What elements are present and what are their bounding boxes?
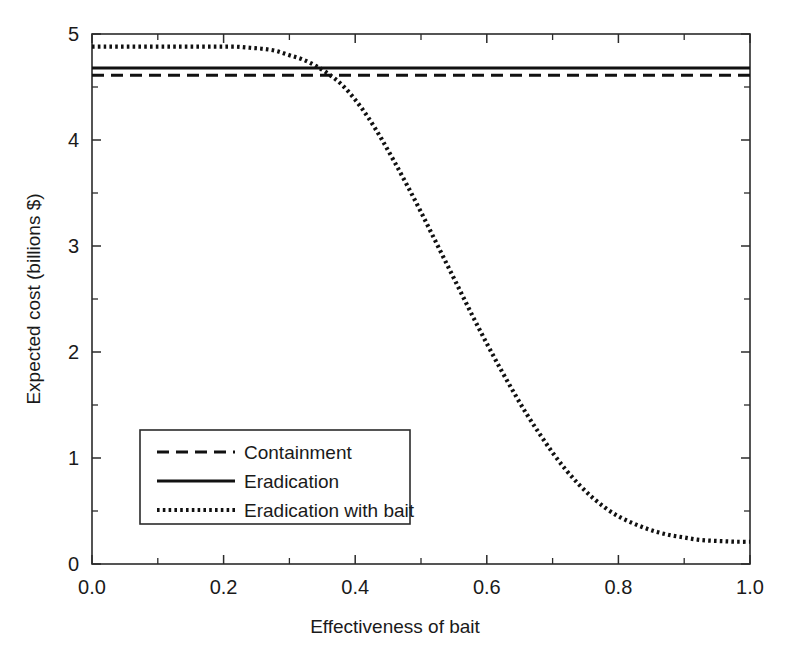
x-axis-title: Effectiveness of bait bbox=[310, 616, 480, 637]
y-tick-label: 5 bbox=[68, 23, 79, 45]
y-axis-title: Expected cost (billions $) bbox=[23, 193, 44, 404]
legend-label-1: Eradication bbox=[244, 471, 339, 492]
y-tick-label: 0 bbox=[68, 553, 79, 575]
y-tick-label: 1 bbox=[68, 447, 79, 469]
x-tick-label: 0.0 bbox=[78, 576, 106, 598]
x-tick-label: 1.0 bbox=[736, 576, 764, 598]
chart-figure: 0.00.20.40.60.81.0 012345 ContainmentEra… bbox=[0, 0, 791, 659]
legend-label-0: Containment bbox=[244, 442, 352, 463]
x-tick-label: 0.2 bbox=[210, 576, 238, 598]
chart-canvas: 0.00.20.40.60.81.0 012345 ContainmentEra… bbox=[0, 0, 791, 659]
y-tick-label: 2 bbox=[68, 341, 79, 363]
y-tick-label: 3 bbox=[68, 235, 79, 257]
y-tick-label: 4 bbox=[68, 129, 79, 151]
x-tick-label: 0.4 bbox=[341, 576, 369, 598]
x-tick-label: 0.8 bbox=[604, 576, 632, 598]
chart-legend: ContainmentEradicationEradication with b… bbox=[140, 430, 415, 524]
figure-background bbox=[0, 0, 791, 659]
legend-label-2: Eradication with bait bbox=[244, 500, 415, 521]
x-tick-label: 0.6 bbox=[473, 576, 501, 598]
